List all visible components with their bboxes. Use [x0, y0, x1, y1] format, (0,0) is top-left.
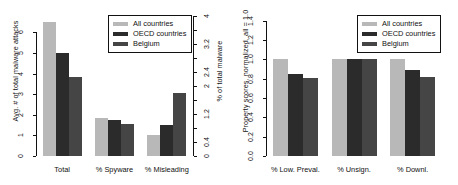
bar-left-panel-c1-s2	[121, 124, 134, 156]
bar-right-panel-c2-s0	[390, 59, 405, 156]
chart-legend: All countriesOECD countriesBelgium	[357, 15, 441, 53]
legend-label: Belgium	[133, 39, 160, 49]
y2-tick-label: 2.4	[202, 63, 212, 81]
y-tick-mark	[263, 117, 266, 118]
legend-swatch-all-countries	[113, 22, 128, 26]
y-tick-mark	[263, 40, 266, 41]
y-tick-mark	[263, 59, 266, 60]
y2-tick-label: 1.2	[202, 105, 212, 123]
y-tick-mark	[33, 53, 36, 54]
y-tick-mark	[33, 115, 36, 116]
y-axis-title: Avg. # of total malware attacks	[11, 0, 20, 156]
legend-item-2: OECD countries	[362, 29, 435, 39]
y2-tick-label: 4	[202, 7, 212, 25]
legend-label: All countries	[133, 19, 173, 29]
y2-tick-label: 3.2	[202, 35, 212, 53]
chart-panel-right: 0.00.20.40.60.81.01.21.4Property scores,…	[229, 0, 458, 185]
bar-left-panel-c1-s0	[95, 118, 108, 157]
bar-right-panel-c0-s1	[288, 74, 303, 156]
x-tick-label: % Low. Preval.	[271, 165, 320, 174]
chart-panel-left: 0123456Avg. # of total malware attacks00…	[0, 0, 229, 185]
legend-label: OECD countries	[382, 29, 435, 39]
legend-label: Belgium	[382, 39, 409, 49]
bar-right-panel-c2-s2	[420, 77, 435, 156]
y-tick-mark	[33, 135, 36, 136]
x-axis-line	[36, 156, 193, 157]
bar-left-panel-c0-s2	[69, 77, 82, 156]
legend-swatch-oecd-countries	[362, 32, 377, 36]
bar-right-panel-c1-s2	[362, 59, 377, 156]
legend-label: OECD countries	[133, 29, 186, 39]
x-tick-label: Total	[54, 165, 70, 174]
figure-root: 0123456Avg. # of total malware attacks00…	[0, 0, 458, 185]
bar-left-panel-c1-s1	[108, 120, 121, 156]
x-tick-label: % Downl.	[397, 165, 428, 174]
y2-tick-mark	[194, 100, 197, 101]
y-tick-mark	[263, 137, 266, 138]
bar-left-panel-c2-s2	[173, 93, 186, 156]
x-tick-label: % Spyware	[96, 165, 133, 174]
y2-tick-mark	[194, 58, 197, 59]
y-tick-mark	[263, 79, 266, 80]
y2-tick-mark	[194, 30, 197, 31]
y-axis-title: Property scores, normalized, all = 1.0	[241, 0, 250, 156]
y2-axis-title: % of total malware	[215, 0, 224, 156]
x-axis-line	[266, 156, 442, 157]
y-tick-mark	[33, 94, 36, 95]
y-tick-mark	[263, 21, 266, 22]
bar-right-panel-c1-s1	[347, 59, 362, 156]
legend-swatch-belgium	[362, 42, 377, 46]
bar-right-panel-c0-s0	[273, 59, 288, 156]
y2-tick-mark	[194, 16, 197, 17]
y-tick-mark	[33, 74, 36, 75]
y-tick-mark	[33, 32, 36, 33]
bar-left-panel-c0-s1	[56, 53, 69, 156]
chart-legend: All countriesOECD countriesBelgium	[108, 15, 192, 53]
bar-right-panel-c1-s0	[332, 59, 347, 156]
y2-tick-mark	[194, 114, 197, 115]
y-axis-line-left	[266, 21, 267, 156]
legend-item-3: Belgium	[362, 39, 435, 49]
legend-item-3: Belgium	[113, 39, 186, 49]
y2-tick-mark	[194, 142, 197, 143]
y-axis-line-left	[36, 32, 37, 156]
x-tick-label: % Unsign.	[337, 165, 371, 174]
bar-right-panel-c2-s1	[405, 70, 420, 156]
bar-left-panel-c0-s0	[43, 22, 56, 156]
legend-swatch-oecd-countries	[113, 32, 128, 36]
legend-item-1: All countries	[113, 19, 186, 29]
legend-swatch-belgium	[113, 42, 128, 46]
legend-item-2: OECD countries	[113, 29, 186, 39]
bar-left-panel-c2-s1	[160, 125, 173, 157]
y-tick-mark	[263, 98, 266, 99]
y2-tick-mark	[194, 44, 197, 45]
y2-tick-mark	[194, 128, 197, 129]
legend-swatch-all-countries	[362, 22, 377, 26]
y2-tick-mark	[194, 86, 197, 87]
legend-label: All countries	[382, 19, 422, 29]
y2-tick-mark	[194, 156, 197, 157]
bar-right-panel-c0-s2	[303, 78, 318, 156]
legend-item-1: All countries	[362, 19, 435, 29]
bar-left-panel-c2-s0	[147, 135, 160, 156]
x-tick-label: % Misleading	[145, 165, 189, 174]
y2-tick-label: 0.4	[202, 133, 212, 151]
y2-tick-mark	[194, 72, 197, 73]
